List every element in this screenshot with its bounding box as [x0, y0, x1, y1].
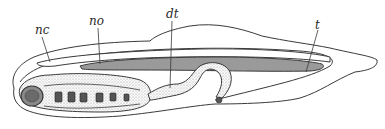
larva-diagram: nc no dt t	[0, 0, 385, 129]
label-dt: dt	[166, 8, 179, 20]
label-no: no	[89, 15, 104, 27]
label-nc: nc	[35, 24, 49, 36]
label-t: t	[315, 19, 320, 31]
